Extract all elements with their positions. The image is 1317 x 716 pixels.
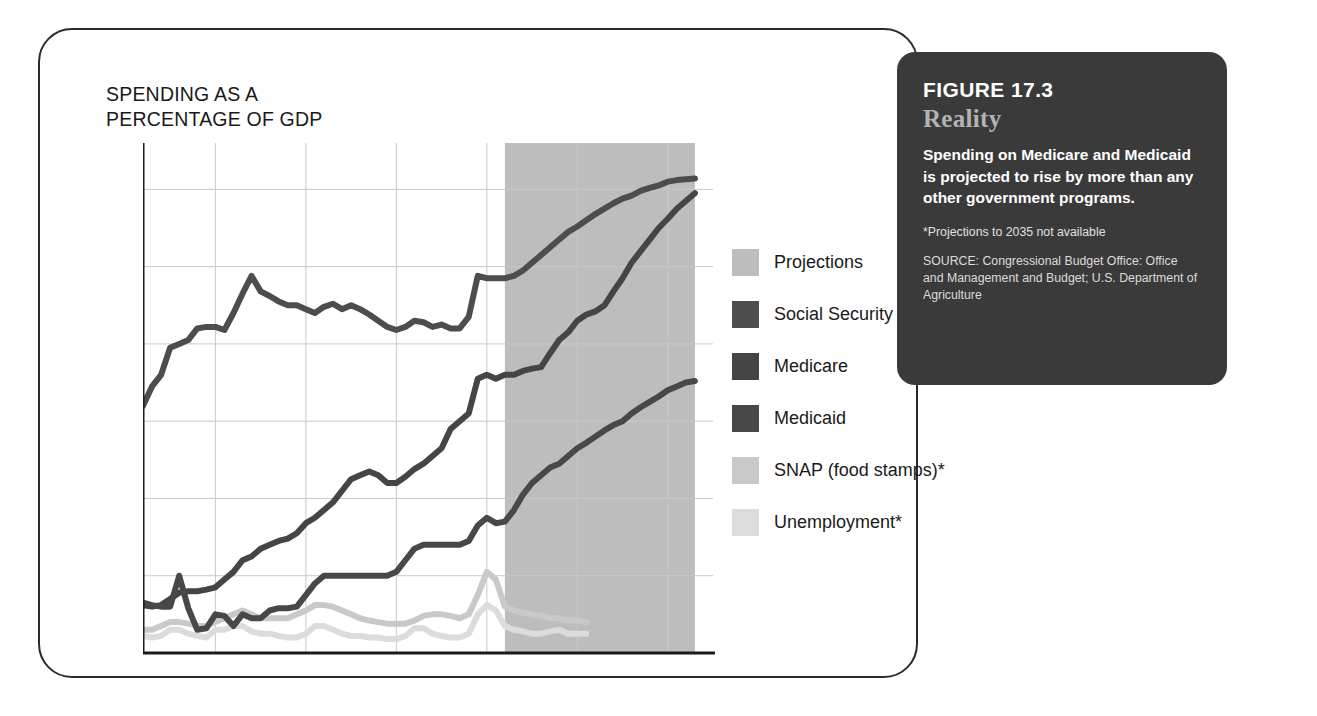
callout-kicker: Reality	[923, 105, 1201, 133]
legend-swatch-projections	[732, 249, 759, 276]
legend-item-label: Projections	[774, 252, 863, 273]
callout-figure-number: FIGURE 17.3	[923, 78, 1201, 102]
figure-callout-box: FIGURE 17.3 Reality Spending on Medicare…	[897, 52, 1227, 385]
callout-body-text: Spending on Medicare and Medicaid is pro…	[923, 144, 1201, 209]
legend-item-label: Unemployment*	[774, 512, 902, 533]
legend-item-label: SNAP (food stamps)*	[774, 460, 945, 481]
figure-card: SPENDING AS A PERCENTAGE OF GDP 12345619…	[38, 28, 918, 678]
line-chart-svg: 1234561980199020002010202020302035	[143, 143, 743, 655]
legend-item-label: Social Security	[774, 304, 893, 325]
legend-swatch-medicare	[732, 353, 759, 380]
callout-footnote: *Projections to 2035 not available	[923, 224, 1201, 241]
legend-swatch-unemployment	[732, 509, 759, 536]
legend-swatch-medicaid	[732, 405, 759, 432]
legend-item-label: Medicare	[774, 356, 848, 377]
legend-item: Medicaid	[732, 392, 947, 444]
legend-swatch-snap	[732, 457, 759, 484]
legend-item: Unemployment*	[732, 496, 947, 548]
legend-swatch-social-security	[732, 301, 759, 328]
legend-item-label: Medicaid	[774, 408, 846, 429]
callout-source: SOURCE: Congressional Budget Office: Off…	[923, 253, 1201, 304]
legend-item: SNAP (food stamps)*	[732, 444, 947, 496]
chart-axis-title: SPENDING AS A PERCENTAGE OF GDP	[106, 82, 322, 132]
chart-plot-area: 1234561980199020002010202020302035	[143, 143, 743, 655]
